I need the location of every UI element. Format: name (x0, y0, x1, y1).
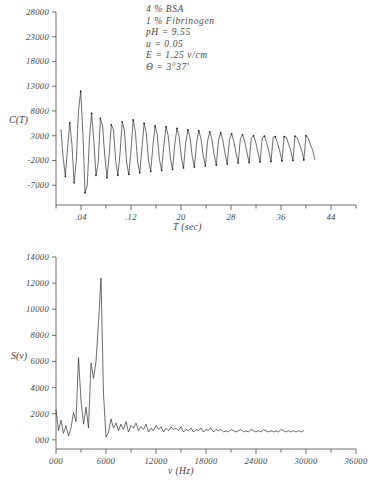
correlation-data-point (194, 166, 196, 168)
correlation-data-point (73, 182, 75, 184)
correlation-data-point (187, 129, 189, 131)
correlation-data-point (205, 165, 207, 167)
correlation-data-point (294, 135, 296, 137)
correlation-x-tick-label: 28 (226, 212, 236, 222)
spectrum-y-tick-label: 000 (35, 435, 49, 445)
correlation-x-tick-label: 44 (326, 212, 336, 222)
spectrum-y-tick-label: 10000 (26, 304, 49, 314)
correlation-data-point (248, 162, 250, 164)
spectrum-y-axis-title: S(ν) (11, 350, 27, 361)
spectrum-x-tick-label: 18000 (195, 456, 218, 466)
correlation-data-point (110, 124, 112, 126)
correlation-data-point (209, 131, 211, 133)
correlation-data-point (117, 174, 119, 176)
spectrum-x-tick-label: 12000 (145, 456, 168, 466)
correlation-y-tick-label: 23000 (26, 32, 49, 42)
correlation-data-point (283, 136, 285, 138)
correlation-data-point (305, 135, 307, 137)
spectrum-x-tick-label: 000 (49, 456, 63, 466)
spectrum-x-axis-title: ν (Hz) (168, 466, 194, 476)
correlation-data-point (198, 130, 200, 132)
correlation-data-point (172, 169, 174, 171)
correlation-data-point (270, 161, 272, 163)
correlation-data-point (161, 170, 163, 172)
correlation-panel: 2800023000180001300080003000-2000-7000.0… (0, 0, 369, 245)
spectrum-y-tick-label: 8000 (31, 330, 50, 340)
correlation-data-point (100, 118, 102, 120)
correlation-x-tick-label: 20 (176, 212, 186, 222)
spectrum-x-tick-label: 24000 (245, 456, 268, 466)
correlation-x-tick-label: .04 (75, 212, 87, 222)
correlation-data-point (226, 163, 228, 165)
correlation-data-point (237, 162, 239, 164)
spectrum-y-tick-label: 6000 (31, 356, 50, 366)
correlation-data-point (132, 119, 134, 121)
spectrum-x-tick-label: 6000 (97, 456, 116, 466)
correlation-y-tick-label: 3000 (30, 131, 50, 141)
correlation-data-point (69, 122, 71, 124)
correlation-trace (61, 91, 315, 192)
correlation-data-point (91, 113, 93, 115)
correlation-data-point (303, 159, 305, 161)
correlation-y-axis-title: C(T) (9, 114, 28, 125)
correlation-data-point (165, 126, 167, 128)
spectrum-y-tick-label: 12000 (26, 278, 49, 288)
spectrum-trace (56, 278, 304, 437)
correlation-data-point (183, 167, 185, 169)
correlation-x-tick-label: .12 (125, 212, 137, 222)
correlation-y-tick-label: -2000 (27, 155, 49, 165)
correlation-y-tick-label: 13000 (26, 81, 49, 91)
correlation-data-point (84, 192, 86, 194)
spectrum-y-tick-label: 4000 (31, 383, 50, 393)
correlation-plot-svg: 2800023000180001300080003000-2000-7000.0… (0, 0, 369, 245)
correlation-data-point (275, 136, 277, 138)
correlation-data-point (128, 173, 130, 175)
correlation-y-tick-label: -7000 (27, 180, 49, 190)
correlation-y-tick-label: 18000 (26, 56, 49, 66)
spectrum-x-tick-label: 36000 (344, 456, 368, 466)
correlation-data-point (176, 127, 178, 129)
correlation-x-axis-title: T (sec) (173, 222, 202, 232)
correlation-data-point (106, 177, 108, 179)
correlation-data-point (281, 160, 283, 162)
spectrum-panel: 1400012000100008000600040002000000000600… (0, 245, 369, 495)
correlation-data-point (242, 134, 244, 136)
correlation-data-point (220, 132, 222, 134)
correlation-data-point (80, 90, 82, 92)
correlation-y-tick-label: 8000 (31, 106, 50, 116)
correlation-data-point (264, 135, 266, 137)
correlation-data-point (121, 121, 123, 123)
figure-container: 4 % BSA 1 % Fibrinogen pH = 9.55 u = 0.0… (0, 0, 369, 495)
correlation-data-point (215, 164, 217, 166)
spectrum-y-tick-label: 2000 (31, 409, 50, 419)
correlation-data-point (143, 123, 145, 125)
correlation-data-point (139, 172, 141, 174)
correlation-data-point (259, 161, 261, 163)
spectrum-x-tick-label: 30000 (294, 456, 318, 466)
correlation-data-point (154, 125, 156, 127)
spectrum-y-tick-label: 14000 (26, 252, 49, 262)
correlation-data-point (65, 175, 67, 177)
correlation-data-point (150, 171, 152, 173)
spectrum-plot-svg: 1400012000100008000600040002000000000600… (0, 245, 369, 495)
correlation-data-point (231, 133, 233, 135)
correlation-data-point (292, 160, 294, 162)
correlation-data-point (253, 135, 255, 137)
correlation-data-point (95, 174, 97, 176)
correlation-y-tick-label: 28000 (26, 7, 49, 17)
correlation-x-tick-label: 36 (275, 212, 286, 222)
